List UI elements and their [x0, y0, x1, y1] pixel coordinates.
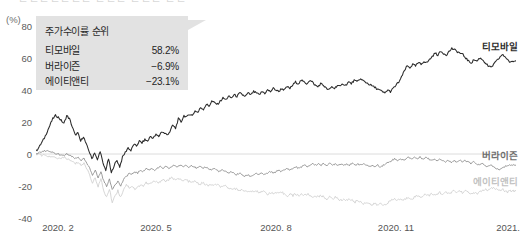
- x-axis-tick-label: 2020. 8: [260, 222, 292, 233]
- legend-series-name: 버라이즌: [45, 59, 80, 75]
- x-axis-tick-label: 2020. 5: [140, 222, 172, 233]
- legend-series-value: −6.9%: [151, 59, 179, 75]
- legend-series-name: 티모바일: [45, 43, 80, 59]
- legend-callout-box: 주가수이률 순위 티모바일58.2%버라이즌−6.9%에이티앤티−23.1%: [36, 16, 188, 90]
- series-end-label: 티모바일: [482, 39, 518, 53]
- y-axis-tick-label: 40: [2, 85, 32, 96]
- x-axis-tick-label: 2021. 2: [496, 222, 522, 233]
- legend-row: 버라이즌−6.9%: [45, 59, 179, 75]
- y-axis-tick-label: 20: [2, 117, 32, 128]
- legend-series-value: 58.2%: [152, 43, 179, 59]
- y-axis-tick-label: 0: [2, 149, 32, 160]
- stock-return-chart: ㄴㄴㄴㄴㄴㄴㄴ ㄴㄴㄴ ㄴㄴㄴ ㄴㄴ (%) 806040200-20-40 2…: [0, 0, 522, 247]
- y-axis: 806040200-20-40: [0, 0, 32, 247]
- cropped-header-strip: ㄴㄴㄴㄴㄴㄴㄴ ㄴㄴㄴ ㄴㄴㄴ ㄴㄴ: [0, 0, 522, 8]
- series-end-label: 에이티앤티: [473, 174, 518, 188]
- legend-row: 티모바일58.2%: [45, 43, 179, 59]
- x-axis-tick-label: 2020. 11: [378, 222, 414, 233]
- cropped-header-text: ㄴㄴㄴㄴㄴㄴㄴ ㄴㄴㄴ ㄴㄴㄴ ㄴㄴ: [18, 0, 186, 7]
- x-axis: 2020. 22020. 52020. 82020. 112021. 2: [36, 222, 522, 238]
- legend-row: 에이티앤티−23.1%: [45, 74, 179, 90]
- series-end-label: 버라이즌: [482, 148, 518, 162]
- y-axis-tick-label: -40: [2, 213, 32, 224]
- legend-series-name: 에이티앤티: [45, 74, 89, 90]
- legend-callout-tail: [188, 20, 206, 40]
- x-axis-tick-label: 2020. 2: [42, 222, 74, 233]
- y-axis-tick-label: -20: [2, 181, 32, 192]
- legend-title: 주가수이률 순위: [45, 23, 179, 38]
- legend-rows: 티모바일58.2%버라이즌−6.9%에이티앤티−23.1%: [45, 43, 179, 90]
- series-line: [36, 150, 516, 189]
- legend-series-value: −23.1%: [146, 74, 179, 90]
- y-axis-tick-label: 60: [2, 53, 32, 64]
- y-axis-tick-label: 80: [2, 21, 32, 32]
